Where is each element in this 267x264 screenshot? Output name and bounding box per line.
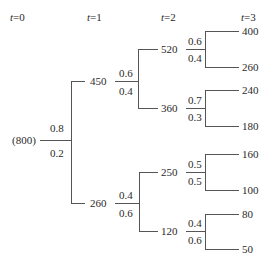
- node-520: 520: [161, 43, 178, 55]
- node-100: 100: [242, 184, 259, 196]
- prob-260-down: 0.6: [119, 207, 133, 219]
- prob-360-up: 0.7: [188, 94, 202, 106]
- root-node: (800): [12, 134, 36, 146]
- prob-root-up: 0.8: [50, 122, 64, 134]
- header-t0: t=0: [10, 11, 25, 23]
- prob-520-up: 0.6: [188, 35, 202, 47]
- prob-250-up: 0.5: [188, 158, 202, 170]
- header-eq: =1: [90, 11, 102, 23]
- node-50: 50: [242, 243, 253, 255]
- node-260-t3: 260: [242, 61, 259, 73]
- node-240: 240: [242, 84, 259, 96]
- prob-450-up: 0.6: [119, 67, 133, 79]
- prob-450-down: 0.4: [119, 85, 133, 97]
- node-120: 120: [161, 225, 178, 237]
- prob-120-up: 0.4: [188, 217, 202, 229]
- node-160: 160: [242, 148, 259, 160]
- node-80: 80: [242, 208, 253, 220]
- header-eq: =3: [244, 11, 256, 23]
- prob-520-down: 0.4: [188, 52, 202, 64]
- header-t2: t=2: [161, 11, 176, 23]
- prob-250-down: 0.5: [188, 175, 202, 187]
- header-t1: t=1: [87, 11, 102, 23]
- node-360: 360: [161, 102, 178, 114]
- node-260-t1: 260: [90, 197, 107, 209]
- prob-120-down: 0.6: [188, 234, 202, 246]
- header-t3: t=3: [241, 11, 256, 23]
- tree-lines: [0, 0, 267, 264]
- node-450: 450: [90, 75, 107, 87]
- prob-root-down: 0.2: [50, 147, 64, 159]
- node-400: 400: [242, 25, 259, 37]
- prob-360-down: 0.3: [188, 111, 202, 123]
- header-eq: =2: [164, 11, 176, 23]
- prob-260-up: 0.4: [119, 189, 133, 201]
- header-eq: =0: [13, 11, 25, 23]
- node-250: 250: [161, 166, 178, 178]
- node-180: 180: [242, 120, 259, 132]
